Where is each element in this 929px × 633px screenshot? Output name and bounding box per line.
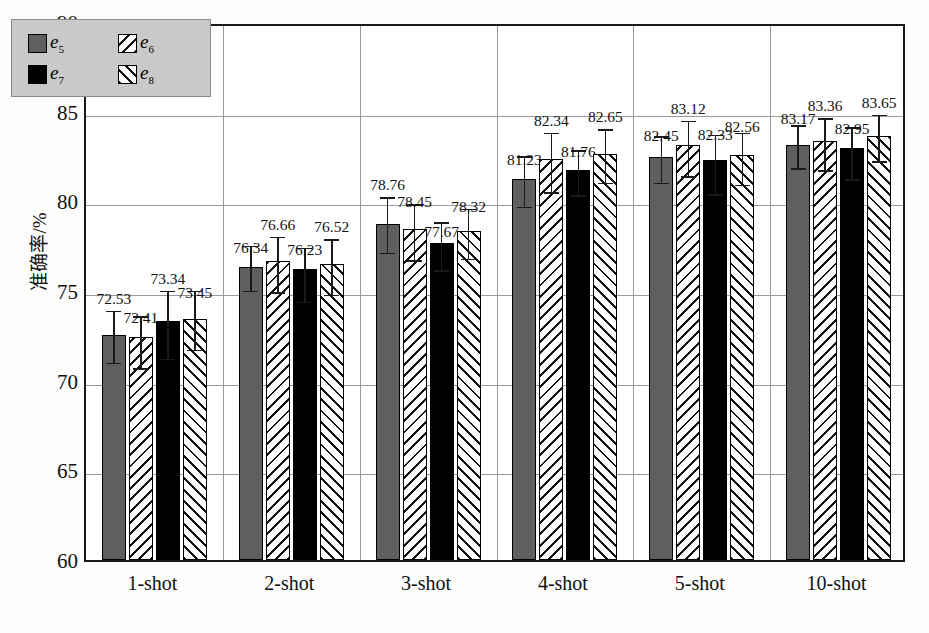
y-tick-label: 80: [34, 192, 78, 213]
bar-value-label: 83.12: [661, 101, 715, 117]
bar-value-label: 83.36: [798, 98, 852, 114]
figure-container: 准确率/% 90858075706560 72.5376.3478.7681.2…: [0, 0, 929, 633]
error-bar-cap-bottom: [133, 368, 148, 370]
gridline-horizontal: [86, 474, 903, 475]
gridline-vertical: [770, 26, 771, 560]
gridline-horizontal: [86, 385, 903, 386]
bar: [703, 160, 727, 560]
x-tick-label-4-shot: 4-shot: [495, 572, 632, 595]
gridline-vertical: [633, 26, 634, 560]
x-tick-label-1-shot: 1-shot: [84, 572, 221, 595]
bar: [566, 170, 590, 560]
bar-value-label: 82.45: [634, 128, 688, 144]
bar: [786, 145, 810, 561]
y-tick-label: 85: [34, 103, 78, 124]
bar-value-label: 82.65: [578, 109, 632, 125]
legend-entry-e8: e8: [118, 63, 154, 86]
error-bar-cap-top: [544, 133, 559, 135]
bar-value-label: 76.23: [278, 242, 332, 258]
error-bar-cap-bottom: [461, 259, 476, 261]
bar: [867, 136, 891, 560]
y-tick-label: 60: [34, 551, 78, 572]
legend-entry-e7: e7: [28, 63, 64, 86]
legend-swatch-hatch-fwd: [118, 65, 137, 84]
error-bar-cap-bottom: [270, 292, 285, 294]
legend-swatch-solid-gray: [28, 34, 47, 53]
bar: [457, 231, 481, 560]
error-bar-cap-top: [818, 118, 833, 120]
bar-value-label: 78.32: [442, 199, 496, 215]
y-tick-label: 75: [34, 282, 78, 303]
error-bar-cap-bottom: [681, 176, 696, 178]
legend-entry-e5: e5: [28, 32, 64, 55]
bar: [539, 159, 563, 560]
error-bar: [468, 209, 470, 259]
error-bar-cap-bottom: [791, 168, 806, 170]
legend-entry-e6: e6: [118, 32, 154, 55]
error-bar-cap-bottom: [324, 295, 339, 297]
error-bar-cap-bottom: [845, 179, 860, 181]
bar: [512, 179, 536, 560]
bar: [593, 154, 617, 560]
bar-value-label: 78.45: [388, 194, 442, 210]
error-bar-cap-bottom: [598, 183, 613, 185]
bar-value-label: 82.95: [825, 121, 879, 137]
bar-value-label: 76.34: [224, 240, 278, 256]
error-bar-cap-top: [681, 121, 696, 123]
bar: [183, 319, 207, 560]
bar: [239, 267, 263, 560]
x-tick-label-3-shot: 3-shot: [358, 572, 495, 595]
error-bar: [551, 133, 553, 192]
error-bar-cap-bottom: [297, 302, 312, 304]
error-bar: [715, 135, 717, 194]
bar: [320, 264, 344, 560]
bar: [129, 337, 153, 560]
error-bar: [605, 129, 607, 183]
error-bar: [167, 291, 169, 359]
legend-swatch-solid-black: [28, 65, 47, 84]
bar-value-label: 72.53: [87, 291, 141, 307]
error-bar-cap-top: [270, 237, 285, 239]
x-tick-label-2-shot: 2-shot: [221, 572, 358, 595]
x-tick-label-5-shot: 5-shot: [631, 572, 768, 595]
x-axis-tick-labels: 1-shot2-shot3-shot4-shot5-shot10-shot: [84, 572, 905, 602]
bar: [266, 261, 290, 560]
bar-value-label: 76.52: [305, 219, 359, 235]
bar-value-label: 83.65: [852, 95, 906, 111]
error-bar-cap-bottom: [544, 192, 559, 194]
legend-label: e6: [140, 32, 154, 55]
x-tick-label-10-shot: 10-shot: [768, 572, 905, 595]
error-bar-cap-bottom: [818, 170, 833, 172]
bar: [649, 157, 673, 560]
bar-value-label: 78.76: [361, 177, 415, 193]
error-bar-cap-bottom: [872, 161, 887, 163]
error-bar-cap-bottom: [517, 207, 532, 209]
legend-label: e7: [50, 63, 64, 86]
error-bar: [742, 133, 744, 185]
bar: [403, 229, 427, 560]
error-bar-cap-bottom: [407, 260, 422, 262]
error-bar-cap-bottom: [654, 183, 669, 185]
gridline-vertical: [360, 26, 361, 560]
error-bar-cap-bottom: [380, 253, 395, 255]
bar: [102, 335, 126, 560]
bar: [813, 141, 837, 560]
error-bar-cap-bottom: [187, 350, 202, 352]
error-bar-cap-bottom: [708, 194, 723, 196]
error-bar: [878, 115, 880, 162]
plot-area: 72.5376.3478.7681.2382.4583.1772.4176.66…: [84, 24, 905, 562]
bar: [676, 145, 700, 560]
bar: [840, 148, 864, 560]
figure-caption: [0, 620, 929, 633]
error-bar-cap-top: [872, 115, 887, 117]
bar: [293, 269, 317, 560]
error-bar: [331, 239, 333, 295]
bar-value-label: 82.34: [524, 113, 578, 129]
chart-legend: e5e6e7e8: [11, 19, 211, 97]
error-bar: [797, 125, 799, 168]
bar: [430, 243, 454, 560]
bar-value-label: 73.45: [168, 285, 222, 301]
legend-label: e5: [50, 32, 64, 55]
bar-value-label: 82.56: [715, 119, 769, 135]
legend-swatch-hatch-back: [118, 34, 137, 53]
